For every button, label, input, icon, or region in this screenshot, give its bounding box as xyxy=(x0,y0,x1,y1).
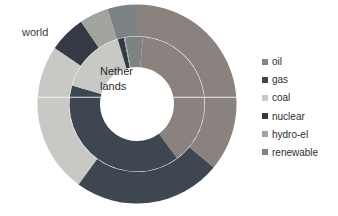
legend-label-renewable: renewable xyxy=(272,147,318,158)
legend: oil gas coal nuclear hydro-el renewable xyxy=(262,56,318,158)
oil-swatch-icon xyxy=(262,59,268,65)
legend-item-nuclear: nuclear xyxy=(262,111,318,122)
world-ring-label: world xyxy=(22,26,48,38)
renewable-swatch-icon xyxy=(262,149,268,155)
legend-item-oil: oil xyxy=(262,56,318,67)
legend-label-gas: gas xyxy=(272,74,288,85)
legend-item-coal: coal xyxy=(262,92,318,103)
legend-label-nuclear: nuclear xyxy=(272,111,305,122)
nuclear-swatch-icon xyxy=(262,113,268,119)
legend-item-gas: gas xyxy=(262,74,318,85)
legend-label-oil: oil xyxy=(272,56,282,67)
energy-mix-chart: world Nether lands oil gas coal nuclear … xyxy=(0,0,338,216)
gas-swatch-icon xyxy=(262,77,268,83)
coal-swatch-icon xyxy=(262,95,268,101)
netherlands-ring-label-line1: Nether xyxy=(100,64,133,79)
legend-item-renewable: renewable xyxy=(262,147,318,158)
legend-label-coal: coal xyxy=(272,92,290,103)
legend-item-hydro-el: hydro-el xyxy=(262,129,318,140)
netherlands-ring-label: Nether lands xyxy=(100,64,133,93)
netherlands-ring-label-line2: lands xyxy=(100,79,133,94)
hydro-el-swatch-icon xyxy=(262,131,268,137)
legend-label-hydro-el: hydro-el xyxy=(272,129,308,140)
